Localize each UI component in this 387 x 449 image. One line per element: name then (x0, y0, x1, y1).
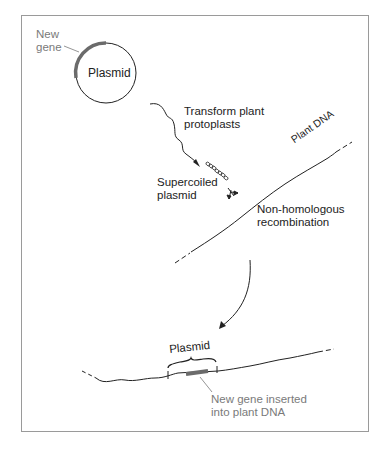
label-transform-line1: Transform plant (184, 105, 264, 118)
crossover-icon (227, 188, 238, 199)
label-supercoiled: Supercoiled plasmid (157, 176, 218, 202)
label-recombination: Non-homologous recombination (257, 203, 345, 229)
plant-dna-dashes-upper (336, 142, 352, 152)
label-transform: Transform plant protoplasts (184, 105, 264, 131)
inserted-gene-segment (186, 371, 208, 374)
label-recombination-line2: recombination (257, 216, 345, 229)
label-new-gene-line1: New (36, 28, 62, 41)
result-dna-dashes-right (318, 349, 334, 352)
result-dna-strand (96, 352, 318, 382)
label-plasmid: Plasmid (88, 67, 131, 80)
label-inserted: New gene inserted into plant DNA (211, 393, 307, 419)
label-transform-line2: protoplasts (184, 118, 264, 131)
new-gene-leader (64, 46, 79, 52)
recombination-arrow (222, 260, 250, 326)
result-dna-dashes-left (82, 371, 96, 378)
plant-dna-dashes-lower (175, 253, 190, 263)
label-inserted-line2: into plant DNA (211, 406, 307, 419)
inserted-gene-leader (200, 377, 212, 392)
arrowhead-icon (219, 321, 226, 329)
label-recombination-line1: Non-homologous (257, 203, 345, 216)
label-new-gene: New gene (36, 28, 62, 54)
label-new-gene-line2: gene (36, 41, 62, 54)
label-supercoiled-line2: plasmid (157, 189, 218, 202)
label-supercoiled-line1: Supercoiled (157, 176, 218, 189)
plasmid-brace (168, 358, 216, 368)
label-inserted-line1: New gene inserted (211, 393, 307, 406)
